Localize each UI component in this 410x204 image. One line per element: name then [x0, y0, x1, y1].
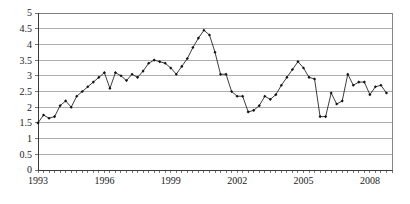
y-tick-label: 3.5: [20, 55, 33, 66]
y-tick-label: 4.5: [20, 23, 33, 34]
y-tick-label: 3: [27, 70, 32, 81]
x-tick-label: 2008: [360, 175, 380, 186]
data-point-marker: [247, 110, 250, 113]
x-axis-labels: 199319961999200220052008: [28, 175, 380, 186]
y-tick-label: 2.5: [20, 86, 33, 97]
y-tick-label: 0.5: [20, 149, 33, 160]
data-point-marker: [108, 87, 111, 90]
x-tick-label: 2005: [294, 175, 314, 186]
data-point-marker: [346, 73, 349, 76]
data-point-marker: [53, 115, 56, 118]
data-point-marker: [330, 92, 333, 95]
data-point-marker: [324, 115, 327, 118]
line-chart: 00.511.522.533.544.551993199619992002200…: [0, 0, 410, 204]
axis-ticks-group: [35, 13, 392, 173]
y-tick-label: 1: [27, 133, 32, 144]
data-point-marker: [225, 73, 228, 76]
x-tick-label: 1993: [28, 175, 48, 186]
data-point-marker: [363, 81, 366, 84]
y-tick-label: 5: [27, 7, 32, 18]
data-point-marker: [313, 77, 316, 80]
y-tick-label: 0: [27, 164, 32, 175]
data-point-marker: [158, 60, 161, 63]
data-point-marker: [241, 95, 244, 98]
chart-container: 00.511.522.533.544.551993199619992002200…: [0, 0, 410, 204]
x-tick-label: 2002: [227, 175, 247, 186]
data-point-marker: [213, 51, 216, 54]
data-point-marker: [319, 115, 322, 118]
data-series-group: [36, 29, 388, 125]
x-tick-label: 1999: [161, 175, 181, 186]
y-tick-label: 1.5: [20, 117, 33, 128]
data-point-marker: [219, 73, 222, 76]
y-axis-labels: 00.511.522.533.544.55: [20, 7, 33, 175]
x-tick-label: 1996: [94, 175, 114, 186]
y-tick-label: 2: [27, 102, 32, 113]
y-tick-label: 4: [27, 39, 32, 50]
